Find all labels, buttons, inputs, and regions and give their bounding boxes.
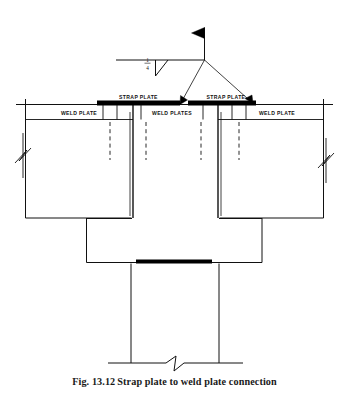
beam-group [87, 218, 263, 264]
connection-detail-drawing: 1 4 [0, 0, 349, 393]
strap-plates-group [97, 101, 256, 106]
weld-size-numerator: 1 [146, 57, 149, 63]
figure-caption: Fig. 13.12Strap plate to weld plate conn… [0, 376, 349, 387]
label-weld-plates-middle: WELD PLATES [152, 110, 192, 116]
fillet-symbol-hypotenuse [156, 60, 169, 76]
weld-size-fraction: 1 4 [145, 57, 151, 71]
figure-caption-text: Strap plate to weld plate connection [117, 376, 277, 387]
break-line-bottom-zigzag-icon [166, 356, 184, 371]
strap-plate-right-bar [188, 101, 256, 106]
bearing-plate-bar [136, 260, 212, 264]
weld-size-denominator: 4 [146, 65, 149, 71]
figure-container: 1 4 [0, 0, 349, 393]
leader-arrowhead-left-icon [180, 96, 188, 105]
field-weld-flag-icon [192, 28, 205, 39]
figure-caption-number: Fig. 13.12 [72, 376, 115, 387]
hidden-anchor-lines-group [110, 122, 239, 160]
label-strap-plate-right: STRAP PLATE [207, 94, 246, 100]
label-weld-plate-left: WELD PLATE [61, 110, 97, 116]
slab-outline-group [16, 99, 333, 218]
column-group [131, 264, 219, 364]
strap-plate-left-bar [97, 101, 180, 106]
label-strap-plate-left: STRAP PLATE [119, 94, 158, 100]
label-weld-plate-right: WELD PLATE [259, 110, 295, 116]
break-lines-group [15, 133, 334, 371]
